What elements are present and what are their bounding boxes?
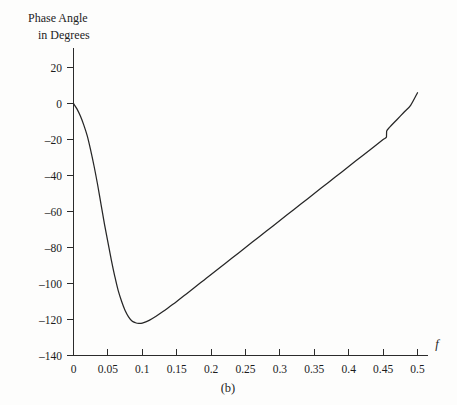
x-tick-label-1: 0.05 xyxy=(98,363,118,375)
x-axis-tick-labels: 0 0.05 0.1 0.15 0.2 0.25 0.3 0.35 0.4 0.… xyxy=(71,363,425,375)
x-tick-label-2: 0.1 xyxy=(135,363,150,375)
x-tick-label-6: 0.3 xyxy=(273,363,288,375)
y-tick-label-6: –100 xyxy=(38,278,62,290)
x-tick-label-3: 0.15 xyxy=(167,363,187,375)
y-axis-ticks xyxy=(67,68,74,356)
figure-caption: (b) xyxy=(221,381,236,395)
x-tick-label-4: 0.2 xyxy=(204,363,219,375)
y-tick-label-1: 0 xyxy=(56,98,62,110)
y-tick-label-5: –80 xyxy=(44,242,63,254)
y-tick-label-2: –20 xyxy=(44,134,63,146)
y-axis-tick-labels: 20 0 –20 –40 –60 –80 –100 –120 –140 xyxy=(38,62,62,362)
y-axis-title: Phase Angle in Degrees xyxy=(28,11,90,42)
phase-angle-chart: 20 0 –20 –40 –60 –80 –100 –120 –140 0 0.… xyxy=(0,0,457,405)
x-tick-label-10: 0.5 xyxy=(410,363,425,375)
y-tick-label-7: –120 xyxy=(38,314,62,326)
y-axis-title-line1: Phase Angle xyxy=(28,11,88,25)
x-tick-label-5: 0.25 xyxy=(235,363,255,375)
y-tick-label-3: –40 xyxy=(44,170,63,182)
x-tick-label-9: 0.45 xyxy=(373,363,393,375)
phase-angle-figure: 20 0 –20 –40 –60 –80 –100 –120 –140 0 0.… xyxy=(0,0,457,405)
x-tick-label-0: 0 xyxy=(71,363,77,375)
x-axis-title: f xyxy=(435,337,440,351)
y-axis-title-line2: in Degrees xyxy=(38,28,90,42)
y-tick-label-8: –140 xyxy=(38,350,62,362)
x-tick-label-8: 0.4 xyxy=(342,363,357,375)
phase-angle-curve xyxy=(74,93,418,324)
x-axis-ticks xyxy=(74,349,418,356)
x-tick-label-7: 0.35 xyxy=(304,363,324,375)
y-tick-label-4: –60 xyxy=(44,206,63,218)
y-tick-label-0: 20 xyxy=(51,62,63,74)
